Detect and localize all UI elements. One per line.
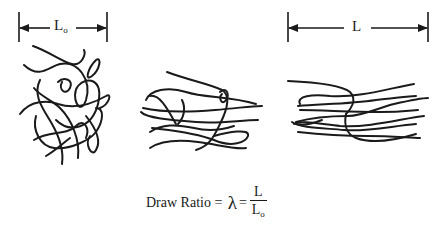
final-length-label: L bbox=[349, 18, 364, 34]
random-coil-chains bbox=[20, 46, 109, 164]
initial-length-label: Lo bbox=[51, 17, 71, 38]
lambda-symbol: λ bbox=[228, 192, 237, 214]
formula-lhs: Draw Ratio bbox=[146, 195, 211, 211]
fraction-denominator: Lo bbox=[252, 201, 265, 223]
partially-oriented-chains bbox=[141, 72, 262, 150]
draw-ratio-formula: Draw Ratio = λ = L Lo bbox=[146, 183, 267, 223]
initial-length-symbol: L bbox=[54, 17, 63, 33]
ratio-fraction: L Lo bbox=[250, 183, 267, 223]
denominator-symbol: L bbox=[252, 202, 261, 217]
final-length-symbol: L bbox=[352, 18, 361, 34]
initial-length-subscript: o bbox=[63, 25, 68, 35]
oriented-chains bbox=[288, 81, 428, 141]
formula-equals: = bbox=[211, 195, 226, 211]
formula-equals-2: = bbox=[239, 195, 247, 211]
fraction-numerator: L bbox=[250, 183, 267, 201]
denominator-subscript: o bbox=[260, 209, 265, 219]
